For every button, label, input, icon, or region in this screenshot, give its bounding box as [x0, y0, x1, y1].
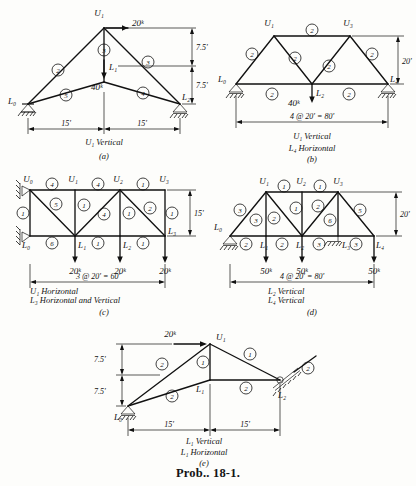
- panel-d-member-bot-2: 2: [280, 241, 284, 249]
- panel-e-caption-2: L₁ Horizontal: [180, 447, 228, 457]
- panel-a-member-5: 5: [64, 92, 68, 100]
- panel-b-caption-1: U₁ Vertical: [293, 131, 331, 141]
- panel-b-joint-U3: U₃: [343, 18, 353, 28]
- panel-e-joint-L2: L₂: [277, 390, 286, 400]
- panel-b-support-right: [378, 84, 396, 98]
- panel-c-member-top-3: 1: [141, 181, 145, 189]
- panel-a-support-right: [170, 104, 188, 118]
- panel-c-joint-L1: L₁: [77, 240, 86, 250]
- panel-b-member-left-diag: 2: [250, 51, 254, 59]
- panel-c-member-bot-1: 6: [50, 240, 54, 248]
- panel-c-joint-L3: L₃: [167, 226, 176, 236]
- panel-c-member-top-1: 4: [50, 181, 54, 189]
- panel-d-load-1: 50ᵏ: [260, 266, 272, 276]
- panel-c-member-diag-3: 2: [148, 205, 152, 213]
- panel-d-member-vert-1: 2: [272, 215, 276, 223]
- panel-b-support-left: [226, 84, 244, 98]
- panel-c-member-top-2: 4: [96, 181, 100, 189]
- panel-a-member-4: 4: [141, 90, 145, 98]
- panel-b-joint-L0: L₀: [217, 74, 226, 84]
- panel-c-caption-2: L₃ Horizontal and Vertical: [29, 295, 121, 305]
- panel-e-joint-L0: L₀: [113, 412, 122, 422]
- panel-b-joint-L2: L₂: [315, 88, 324, 98]
- panel-d-member-vert-3: 6: [328, 217, 332, 225]
- panel-d-member-end-right: 5: [358, 207, 362, 215]
- panel-d-members: [230, 192, 374, 236]
- panel-c-letter-wrap: (c): [0, 305, 208, 319]
- truss-panel-c: 4 4 1 1 5 1 4 1 2 1 6: [0, 168, 208, 303]
- panel-c-member-diag-2: 4: [102, 211, 106, 219]
- panel-a-joint-U1: U₁: [94, 8, 104, 18]
- panel-d-member-bot-1: 2: [244, 241, 248, 249]
- panel-a-dim-upper: 7.5': [196, 43, 208, 52]
- panel-c-dim-span-label: 3 @ 20' = 60': [75, 272, 120, 281]
- panel-e-load-label: 20ᵏ: [164, 329, 176, 339]
- panel-d-dim-height-label: 20': [400, 210, 410, 219]
- panel-b-member-bot-right: 2: [347, 91, 351, 99]
- panel-b-member-diag-3: 2: [327, 63, 331, 71]
- panel-c-member-bot-2: 1: [96, 240, 100, 248]
- panel-e-dim-lower: 7.5': [94, 387, 106, 396]
- panel-c-member-vert-2: 1: [127, 210, 131, 218]
- panel-d-joint-U3: U₃: [333, 176, 343, 186]
- panel-b-dim-height-label: 20': [402, 57, 412, 66]
- panel-d-joint-L0: L₀: [213, 222, 222, 232]
- panel-a-member-3b: 3: [145, 59, 150, 67]
- panel-c-dim-height-label: 15': [194, 209, 204, 218]
- panel-c-member-vert-0: 1: [21, 210, 25, 218]
- panel-d-support-left: [220, 236, 238, 250]
- truss-panel-a: 2 3 3 5 4 U₁ L₀ L₁ L₂ 20ᵏ 40ᵏ: [0, 0, 208, 150]
- panel-d-joint-U2: U₂: [296, 176, 306, 186]
- panel-d-caption-2: L₄ Vertical: [267, 295, 305, 305]
- panel-b-member-right-diag: 2: [370, 51, 374, 59]
- panel-a-dim-left: 15': [61, 119, 71, 128]
- panel-c-dim-span: 3 @ 20' = 60': [30, 264, 165, 288]
- figure-sheet: 2 3 3 5 4 U₁ L₀ L₁ L₂ 20ᵏ 40ᵏ: [0, 0, 416, 486]
- panel-a-joint-L1: L₁: [108, 62, 117, 72]
- panel-c-joint-L0: L₀: [21, 240, 30, 250]
- panel-c-joint-U2: U₂: [113, 174, 123, 184]
- panel-d-joint-L1: L₁: [259, 240, 268, 250]
- panel-a-letter: (a): [99, 151, 109, 161]
- panel-a-dim-horizontal: 15' 15': [28, 92, 180, 134]
- panel-e-joint-U1: U₁: [216, 332, 226, 342]
- panel-d-member-bot-3: 3: [316, 241, 321, 249]
- panel-c-joint-U1: U₁: [68, 174, 78, 184]
- panel-d-member-diag-2: 1: [294, 205, 298, 213]
- panel-e-member-bot-right: 2: [244, 385, 248, 393]
- panel-d-joint-U1: U₁: [259, 176, 269, 186]
- panel-c-letter: (c): [99, 307, 109, 317]
- panel-e-member-bot-left: 2: [170, 393, 174, 401]
- truss-panel-d: 1 1 3 3 2 1 2 6 5 2 2: [208, 168, 416, 303]
- panel-d-joint-L4: L₄: [375, 240, 384, 250]
- panel-d-joint-L2: L₂: [295, 240, 304, 250]
- panel-d-member-top-2: 1: [318, 183, 322, 191]
- panel-c-loads: [72, 236, 168, 263]
- panel-d-member-diag-1: 3: [253, 217, 258, 225]
- panel-a-letter-wrap: (a): [0, 150, 208, 164]
- panel-d-letter: (d): [307, 307, 317, 317]
- panel-e-caption-1: L₁ Vertical: [185, 436, 223, 446]
- panel-a-member-3a: 3: [101, 47, 106, 55]
- panel-a-load-40k: [101, 60, 107, 79]
- panel-c-member-vert-1: 1: [82, 202, 86, 210]
- panel-b-load-label: 40ᵏ: [288, 98, 300, 108]
- panel-d-dim-span-label: 4 @ 20' = 80': [280, 272, 324, 281]
- panel-a-support-left: [18, 104, 36, 116]
- panel-c-member-vert-3: 1: [170, 210, 174, 218]
- panel-e-member-top-left: 2: [160, 361, 164, 369]
- panel-a-load-label-40k: 40ᵏ: [91, 82, 103, 92]
- panel-d-joint-L3: L₃: [341, 240, 350, 250]
- panel-b-letter: (b): [307, 154, 317, 164]
- panel-a-dim-vertical: 7.5' 7.5': [106, 28, 208, 104]
- panel-b-member-diag-2: 2: [293, 55, 297, 63]
- problem-label: Prob.. 18-1.: [0, 466, 416, 481]
- panel-e-dim-upper: 7.5': [94, 355, 106, 364]
- panel-e-dim-vertical: 7.5' 7.5': [94, 344, 172, 406]
- panel-c-member-diag-1: 5: [54, 201, 58, 209]
- panel-d-letter-wrap: (d): [208, 305, 416, 319]
- panel-a-member-2: 2: [56, 67, 60, 75]
- panel-e-dim-right: 15': [240, 420, 250, 429]
- panel-c-joint-U0: U₀: [23, 174, 33, 184]
- panel-b-caption-2: L₄ Horizontal: [288, 143, 336, 153]
